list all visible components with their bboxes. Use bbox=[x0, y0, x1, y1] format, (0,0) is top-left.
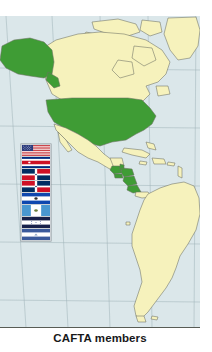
country-nicaragua bbox=[123, 176, 137, 186]
figure-caption: CAFTA members bbox=[0, 332, 200, 344]
country-greenland bbox=[164, 17, 200, 60]
country-canada bbox=[40, 32, 170, 104]
flag-el-salvador-icon bbox=[22, 193, 50, 204]
canada-island-newfoundland bbox=[156, 86, 170, 96]
country-united-states-alaska bbox=[0, 38, 54, 78]
country-el-salvador bbox=[114, 174, 123, 178]
flag-honduras-icon bbox=[22, 217, 50, 228]
flag-united-states-icon bbox=[22, 145, 50, 156]
island-puerto-rico bbox=[167, 162, 175, 166]
island-hispaniola bbox=[152, 158, 166, 164]
south-america-patagonia-tip bbox=[136, 316, 146, 322]
arctic-islands-2 bbox=[140, 20, 162, 36]
flag-costa-rica-icon bbox=[22, 157, 50, 168]
island-cuba bbox=[122, 148, 150, 158]
island-falklands bbox=[151, 316, 158, 320]
island-galapagos bbox=[126, 222, 130, 225]
country-honduras bbox=[121, 168, 134, 177]
island-jamaica bbox=[139, 161, 147, 165]
map-bottom-border bbox=[0, 327, 200, 328]
americas-map bbox=[0, 16, 200, 328]
flag-dominican-republic-icon bbox=[22, 169, 50, 180]
lesser-antilles bbox=[178, 166, 182, 178]
cafta-member-flag-strip bbox=[21, 144, 51, 241]
flag-guatemala-icon bbox=[22, 205, 50, 216]
flag-dominican-republic-icon-2 bbox=[22, 181, 50, 192]
island-bahamas bbox=[146, 142, 156, 150]
continent-south-america bbox=[132, 182, 200, 318]
flag-nicaragua-icon bbox=[22, 229, 50, 240]
cafta-members-figure: CAFTA members bbox=[0, 0, 212, 352]
